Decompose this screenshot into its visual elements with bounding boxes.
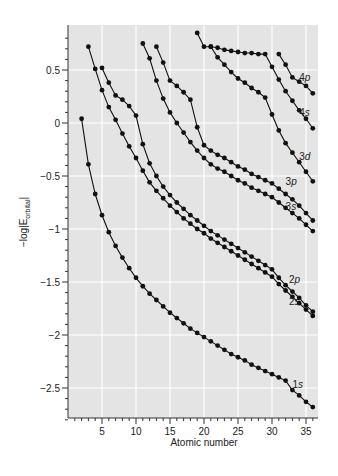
data-point bbox=[195, 330, 200, 335]
data-point bbox=[154, 78, 159, 83]
data-point bbox=[236, 76, 241, 81]
data-point bbox=[222, 169, 227, 174]
data-point bbox=[249, 86, 254, 91]
data-point bbox=[127, 266, 132, 271]
data-point bbox=[236, 50, 241, 55]
data-point bbox=[229, 352, 234, 357]
y-axis-title: −log|Eorbital| bbox=[18, 197, 31, 247]
data-point bbox=[100, 88, 105, 93]
series-label-3s: 3s bbox=[286, 201, 297, 212]
data-point bbox=[202, 156, 207, 161]
data-point bbox=[249, 185, 254, 190]
data-point bbox=[202, 231, 207, 236]
data-point bbox=[242, 51, 247, 56]
data-point bbox=[168, 310, 173, 315]
data-point bbox=[100, 213, 105, 218]
data-point bbox=[106, 105, 111, 110]
data-point bbox=[140, 41, 145, 46]
data-point bbox=[229, 241, 234, 246]
data-point bbox=[86, 44, 91, 49]
data-point bbox=[113, 93, 118, 98]
data-point bbox=[168, 193, 173, 198]
data-point bbox=[310, 91, 315, 96]
data-point bbox=[188, 97, 193, 102]
data-point bbox=[304, 303, 309, 308]
data-point bbox=[208, 44, 213, 49]
data-point bbox=[127, 144, 132, 149]
data-point bbox=[202, 44, 207, 49]
data-point bbox=[304, 211, 309, 216]
x-tick-label: 25 bbox=[232, 426, 244, 437]
data-point bbox=[304, 222, 309, 227]
data-point bbox=[236, 164, 241, 169]
y-tick-label: −0.5 bbox=[40, 171, 60, 182]
data-point bbox=[276, 275, 281, 280]
data-point bbox=[249, 51, 254, 56]
data-point bbox=[229, 70, 234, 75]
data-point bbox=[161, 60, 166, 65]
data-point bbox=[249, 171, 254, 176]
series-label-4p: 4p bbox=[299, 72, 311, 83]
data-point bbox=[229, 49, 234, 54]
data-point bbox=[276, 282, 281, 287]
data-point bbox=[140, 142, 145, 147]
data-point bbox=[202, 223, 207, 228]
x-axis: 5101520253035 bbox=[68, 418, 318, 437]
data-point bbox=[188, 326, 193, 331]
data-point bbox=[208, 339, 213, 344]
data-point bbox=[113, 117, 118, 122]
data-point bbox=[188, 213, 193, 218]
data-point bbox=[276, 186, 281, 191]
y-tick-label: 0.5 bbox=[46, 65, 60, 76]
data-point bbox=[222, 237, 227, 242]
data-point bbox=[304, 399, 309, 404]
data-point bbox=[140, 168, 145, 173]
y-tick-label: −1.5 bbox=[40, 277, 60, 288]
data-point bbox=[120, 255, 125, 260]
data-point bbox=[290, 289, 295, 294]
data-point bbox=[276, 77, 281, 82]
data-point bbox=[154, 44, 159, 49]
data-point bbox=[236, 246, 241, 251]
data-point bbox=[195, 31, 200, 36]
data-point bbox=[147, 161, 152, 166]
data-point bbox=[174, 316, 179, 321]
data-point bbox=[154, 188, 159, 193]
data-point bbox=[256, 365, 261, 370]
data-point bbox=[86, 162, 91, 167]
data-point bbox=[215, 55, 220, 60]
data-point bbox=[134, 275, 139, 280]
data-point bbox=[263, 263, 268, 268]
data-point bbox=[215, 166, 220, 171]
data-point bbox=[270, 112, 275, 117]
data-point bbox=[256, 52, 261, 57]
series-label-1s: 1s bbox=[292, 379, 303, 390]
data-point bbox=[310, 309, 315, 314]
data-point bbox=[310, 126, 315, 131]
orbital-energy-chart: 0.50−0.5−1−1.5−2−2.5 5101520253035 1s2s2… bbox=[0, 0, 338, 476]
data-point bbox=[263, 178, 268, 183]
data-point bbox=[202, 335, 207, 340]
data-point bbox=[283, 288, 288, 293]
data-point bbox=[181, 321, 186, 326]
data-point bbox=[161, 196, 166, 201]
data-point bbox=[215, 343, 220, 348]
data-point bbox=[242, 167, 247, 172]
data-point bbox=[208, 229, 213, 234]
data-point bbox=[195, 227, 200, 232]
series-label-4s: 4s bbox=[299, 107, 310, 118]
data-point bbox=[215, 240, 220, 245]
data-point bbox=[283, 192, 288, 197]
data-point bbox=[215, 233, 220, 238]
data-point bbox=[242, 250, 247, 255]
data-point bbox=[242, 257, 247, 262]
data-point bbox=[208, 148, 213, 153]
data-point bbox=[263, 369, 268, 374]
data-point bbox=[188, 140, 193, 145]
data-point bbox=[106, 230, 111, 235]
data-point bbox=[283, 141, 288, 146]
data-point bbox=[310, 218, 315, 223]
data-point bbox=[290, 75, 295, 80]
data-point bbox=[229, 174, 234, 179]
data-point bbox=[263, 95, 268, 100]
